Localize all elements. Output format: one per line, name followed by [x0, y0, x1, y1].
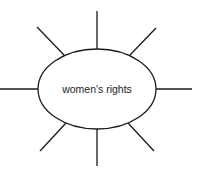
spoke-upper-left [37, 27, 64, 55]
spoke-lower-left [40, 123, 66, 151]
spoke-upper-right [130, 28, 156, 55]
spoke-lower-right [128, 123, 154, 151]
center-label: women's rights [61, 83, 132, 95]
concept-web-diagram: women's rights [0, 0, 197, 176]
